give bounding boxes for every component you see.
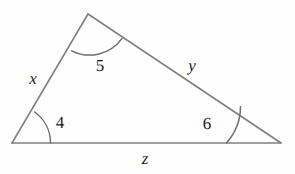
angle-4-arc (35, 112, 51, 143)
angle-label-6: 6 (203, 115, 212, 132)
side-x-line (12, 14, 88, 143)
side-label-y: y (188, 57, 196, 74)
angle-label-4: 4 (56, 114, 65, 131)
angle-label-5: 5 (96, 57, 105, 74)
angle-5-arc (72, 39, 122, 55)
geometry-figure: x y z 4 5 6 (0, 0, 295, 174)
side-label-z: z (142, 150, 149, 167)
side-y-line (88, 14, 281, 143)
side-label-x: x (29, 70, 37, 87)
